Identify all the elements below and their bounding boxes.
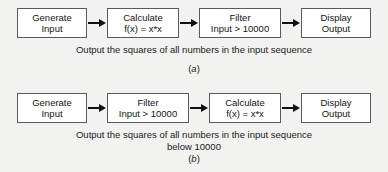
node-a-3-line1: Filter [229, 12, 250, 23]
node-b-2-line1: Filter [137, 97, 158, 108]
node-a-4-line2: Output [322, 23, 351, 34]
arrow-head [191, 19, 198, 27]
node-b-2: Filter Input > 10000 [107, 93, 189, 123]
arrow-right-icon [189, 102, 209, 114]
label-b-close: ) [197, 153, 200, 164]
arrow-right-icon [87, 102, 107, 114]
node-a-1: Generate Input [17, 8, 87, 38]
arrow-right-icon [87, 17, 107, 29]
node-b-3: Calculate f(x) = x*x [209, 93, 281, 123]
caption-a: Output the squares of all numbers in the… [0, 44, 388, 56]
caption-b: Output the squares of all numbers in the… [0, 129, 388, 153]
node-a-1-line2: Input [41, 23, 62, 34]
caption-b-line1: Output the squares of all numbers in the… [0, 129, 388, 141]
arrow-head [99, 19, 106, 27]
subfigure-label-a: (a) [0, 63, 388, 74]
node-b-4-line2: Output [322, 108, 351, 119]
node-a-2-line1: Calculate [123, 12, 163, 23]
node-a-2: Calculate f(x) = x*x [107, 8, 179, 38]
node-a-3-line2: Input > 10000 [211, 23, 269, 34]
node-b-1-line2: Input [41, 108, 62, 119]
arrow-right-icon [281, 17, 301, 29]
node-b-4: Display Output [301, 93, 371, 123]
node-b-4-line1: Display [320, 97, 351, 108]
node-a-1-line1: Generate [32, 12, 72, 23]
label-a-close: ) [197, 63, 200, 74]
node-a-4-line1: Display [320, 12, 351, 23]
node-a-3: Filter Input > 10000 [199, 8, 281, 38]
node-b-1-line1: Generate [32, 97, 72, 108]
node-a-2-line2: f(x) = x*x [124, 23, 162, 34]
caption-a-line1: Output the squares of all numbers in the… [0, 44, 388, 56]
arrow-head [293, 104, 300, 112]
node-b-2-line2: Input > 10000 [119, 108, 177, 119]
arrow-right-icon [281, 102, 301, 114]
node-b-3-line2: f(x) = x*x [226, 108, 264, 119]
node-b-3-line1: Calculate [225, 97, 265, 108]
arrow-head [201, 104, 208, 112]
node-b-1: Generate Input [17, 93, 87, 123]
arrow-head [293, 19, 300, 27]
pipeline-diagram-a: Generate Input Calculate f(x) = x*x Filt… [0, 8, 388, 38]
arrow-head [99, 104, 106, 112]
caption-b-line2: below 10000 [0, 141, 388, 153]
arrow-right-icon [179, 17, 199, 29]
node-a-4: Display Output [301, 8, 371, 38]
subfigure-label-b: (b) [0, 153, 388, 164]
pipeline-figure: Generate Input Calculate f(x) = x*x Filt… [0, 0, 388, 172]
pipeline-diagram-b: Generate Input Filter Input > 10000 Calc… [0, 93, 388, 123]
